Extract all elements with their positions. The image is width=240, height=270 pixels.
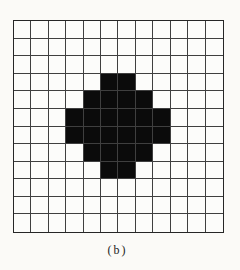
grid-cell-0-5-white (101, 21, 118, 39)
grid-cell-5-8-black (153, 109, 170, 127)
grid-cell-0-4-white (84, 21, 101, 39)
grid-cell-5-5-black (101, 109, 118, 127)
grid-cell-10-3-white (66, 197, 83, 215)
grid-cell-6-3-black (66, 127, 83, 145)
grid-cell-9-8-white (153, 179, 170, 197)
grid-cell-10-2-white (49, 197, 66, 215)
grid-cell-0-1-white (31, 21, 48, 39)
grid-cell-4-3-white (66, 91, 83, 109)
grid-cell-6-5-black (101, 127, 118, 145)
grid-cell-11-5-white (101, 214, 118, 232)
grid-cell-10-1-white (31, 197, 48, 215)
grid-cell-6-0-white (14, 127, 31, 145)
grid-cell-5-1-white (31, 109, 48, 127)
grid-cell-1-4-white (84, 39, 101, 57)
grid-cell-3-11-white (206, 74, 223, 92)
grid-cell-2-4-white (84, 56, 101, 74)
grid-cell-1-1-white (31, 39, 48, 57)
grid-cell-11-6-white (118, 214, 135, 232)
grid-cell-10-5-white (101, 197, 118, 215)
grid-cell-8-6-black (118, 162, 135, 180)
grid-cell-10-9-white (171, 197, 188, 215)
grid-cell-6-10-white (188, 127, 205, 145)
grid-cell-10-10-white (188, 197, 205, 215)
grid-cell-0-0-white (14, 21, 31, 39)
grid-cell-6-1-white (31, 127, 48, 145)
grid-cell-4-8-white (153, 91, 170, 109)
grid-cell-1-6-white (118, 39, 135, 57)
grid-cell-4-11-white (206, 91, 223, 109)
grid-cell-11-3-white (66, 214, 83, 232)
grid-cell-3-10-white (188, 74, 205, 92)
grid-cell-2-6-white (118, 56, 135, 74)
grid-cell-3-1-white (31, 74, 48, 92)
grid-cell-11-1-white (31, 214, 48, 232)
grid-cell-6-6-black (118, 127, 135, 145)
grid-cell-0-8-white (153, 21, 170, 39)
grid-cell-8-8-white (153, 162, 170, 180)
grid-cell-4-6-black (118, 91, 135, 109)
grid-cell-8-1-white (31, 162, 48, 180)
grid-cell-6-11-white (206, 127, 223, 145)
grid-cell-11-0-white (14, 214, 31, 232)
grid-cell-9-2-white (49, 179, 66, 197)
grid-cell-3-3-white (66, 74, 83, 92)
grid-cell-9-1-white (31, 179, 48, 197)
grid-cell-1-0-white (14, 39, 31, 57)
grid-cell-9-7-white (136, 179, 153, 197)
grid-cell-2-3-white (66, 56, 83, 74)
grid-cell-0-2-white (49, 21, 66, 39)
grid-cell-9-6-white (118, 179, 135, 197)
grid-cell-5-11-white (206, 109, 223, 127)
grid-cell-5-6-black (118, 109, 135, 127)
grid-cell-3-0-white (14, 74, 31, 92)
grid-cell-1-10-white (188, 39, 205, 57)
grid-cell-0-3-white (66, 21, 83, 39)
grid-cell-6-4-black (84, 127, 101, 145)
grid-cell-10-0-white (14, 197, 31, 215)
grid-cell-10-4-white (84, 197, 101, 215)
grid-cell-4-0-white (14, 91, 31, 109)
grid-cell-9-5-white (101, 179, 118, 197)
grid-cell-4-5-black (101, 91, 118, 109)
grid-cell-8-11-white (206, 162, 223, 180)
grid-cell-7-3-white (66, 144, 83, 162)
grid-cell-4-4-black (84, 91, 101, 109)
grid-cell-7-6-black (118, 144, 135, 162)
grid-cell-1-9-white (171, 39, 188, 57)
grid-cell-2-8-white (153, 56, 170, 74)
grid-cell-7-9-white (171, 144, 188, 162)
grid-cell-10-8-white (153, 197, 170, 215)
grid-cell-7-5-black (101, 144, 118, 162)
grid-cell-7-2-white (49, 144, 66, 162)
grid-cell-7-4-black (84, 144, 101, 162)
grid-cell-8-9-white (171, 162, 188, 180)
grid-cell-8-3-white (66, 162, 83, 180)
grid-cell-2-2-white (49, 56, 66, 74)
grid-cell-10-6-white (118, 197, 135, 215)
grid-cell-7-0-white (14, 144, 31, 162)
grid-cell-7-8-white (153, 144, 170, 162)
grid-cell-2-7-white (136, 56, 153, 74)
grid-cell-2-10-white (188, 56, 205, 74)
grid-cell-7-1-white (31, 144, 48, 162)
grid-cell-0-6-white (118, 21, 135, 39)
grid-cell-1-7-white (136, 39, 153, 57)
grid-cell-2-11-white (206, 56, 223, 74)
grid-cell-2-9-white (171, 56, 188, 74)
grid-cell-8-10-white (188, 162, 205, 180)
grid-cell-11-9-white (171, 214, 188, 232)
grid-cell-4-9-white (171, 91, 188, 109)
binary-image-figure: (b) (0, 0, 240, 270)
grid-cell-11-11-white (206, 214, 223, 232)
figure-caption: (b) (13, 243, 222, 258)
grid-cell-11-10-white (188, 214, 205, 232)
grid-cell-3-6-black (118, 74, 135, 92)
grid-cell-5-0-white (14, 109, 31, 127)
grid-cell-1-2-white (49, 39, 66, 57)
grid-cell-3-4-white (84, 74, 101, 92)
grid-cell-9-4-white (84, 179, 101, 197)
grid-cell-0-7-white (136, 21, 153, 39)
grid-cell-4-7-black (136, 91, 153, 109)
grid-cell-7-7-black (136, 144, 153, 162)
